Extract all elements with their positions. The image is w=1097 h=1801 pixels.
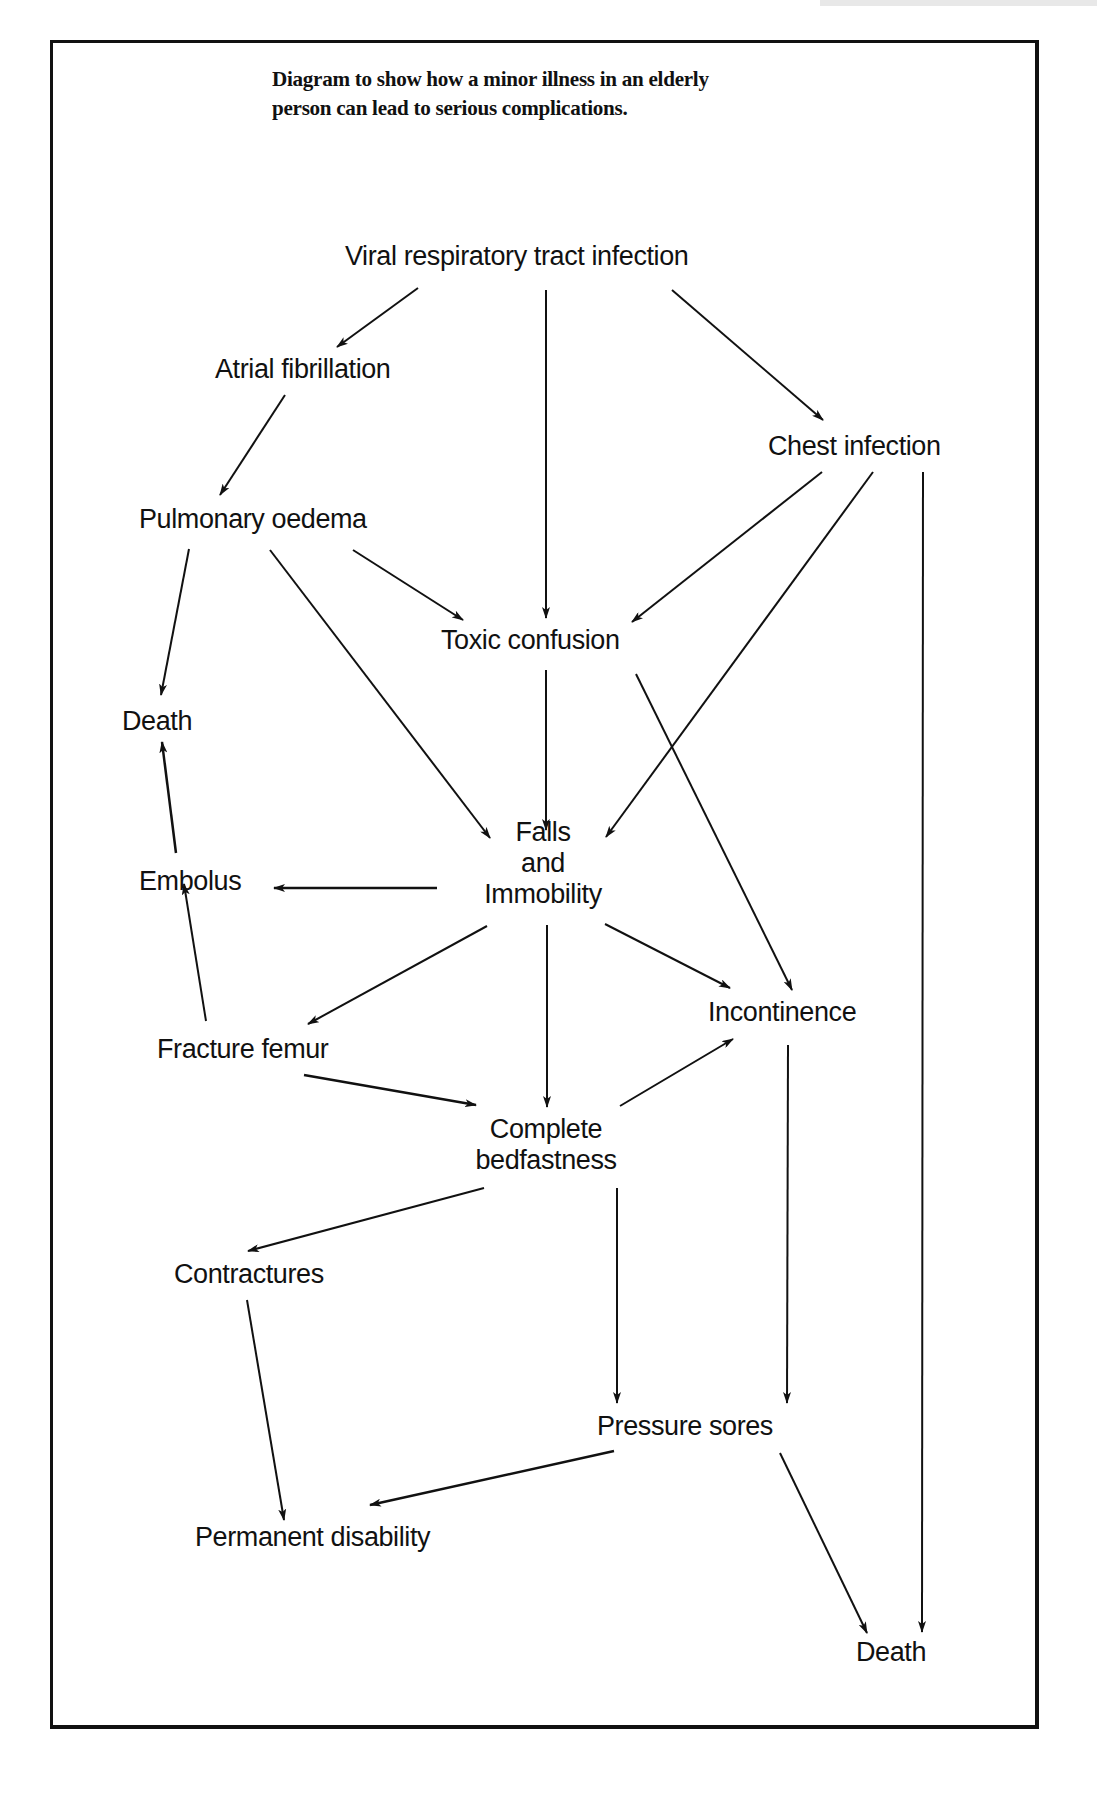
edge-viral-to-atrial bbox=[337, 288, 418, 347]
node-label: Pressure sores bbox=[597, 1411, 773, 1441]
node-pulmonary-oedema: Pulmonary oedema bbox=[139, 503, 367, 535]
node-fracture-femur: Fracture femur bbox=[157, 1033, 328, 1065]
node-label: Fracture femur bbox=[157, 1034, 328, 1064]
node-label: Permanent disability bbox=[195, 1522, 430, 1552]
node-label: Viral respiratory tract infection bbox=[345, 241, 688, 271]
node-incontinence: Incontinence bbox=[708, 996, 856, 1028]
node-label: Pulmonary oedema bbox=[139, 504, 367, 534]
edge-toxic-to-incontinence bbox=[636, 674, 792, 990]
node-label: Atrial fibrillation bbox=[215, 354, 390, 384]
node-label: Death bbox=[856, 1637, 926, 1667]
node-toxic-confusion: Toxic confusion bbox=[441, 624, 620, 656]
node-atrial-fibrillation: Atrial fibrillation bbox=[215, 353, 390, 385]
edge-bedfast-to-contractures bbox=[248, 1188, 484, 1251]
edge-pulmonary-to-falls bbox=[270, 550, 490, 838]
node-viral-respiratory-tract-infection: Viral respiratory tract infection bbox=[345, 240, 688, 272]
node-death-right: Death bbox=[856, 1636, 926, 1668]
node-label: Contractures bbox=[174, 1259, 324, 1289]
edge-bedfast-to-incontinence bbox=[620, 1039, 733, 1106]
node-chest-infection: Chest infection bbox=[768, 430, 941, 462]
node-contractures: Contractures bbox=[174, 1258, 324, 1290]
edge-embolus-to-death bbox=[162, 742, 176, 853]
edge-atrial-to-pulmonary bbox=[220, 395, 285, 495]
node-death-left: Death bbox=[122, 705, 192, 737]
edge-incontinence-to-pressure bbox=[787, 1045, 788, 1403]
edge-pressure-to-permanent bbox=[370, 1451, 614, 1505]
edge-pressure-to-death bbox=[780, 1453, 867, 1633]
node-label-line-1: Complete bbox=[475, 1114, 616, 1145]
node-pressure-sores: Pressure sores bbox=[597, 1410, 773, 1442]
node-permanent-disability: Permanent disability bbox=[195, 1521, 430, 1553]
edge-fracture-to-embolus bbox=[184, 884, 206, 1021]
edge-chest-to-death bbox=[922, 472, 923, 1632]
node-label: Toxic confusion bbox=[441, 625, 620, 655]
node-complete-bedfastness: Complete bedfastness bbox=[475, 1114, 616, 1176]
edge-falls-to-fracture bbox=[308, 926, 487, 1024]
edge-pulmonary-to-toxic bbox=[353, 550, 463, 620]
edge-falls-to-incontinence bbox=[605, 924, 730, 988]
node-label: Embolus bbox=[139, 866, 241, 896]
edge-pulmonary-to-death bbox=[161, 549, 189, 695]
node-label: Death bbox=[122, 706, 192, 736]
node-label-line-2: and bbox=[484, 848, 602, 879]
edge-fracture-to-bedfast bbox=[304, 1075, 476, 1105]
edge-chest-to-falls bbox=[606, 472, 873, 837]
node-label: Chest infection bbox=[768, 431, 941, 461]
node-label-line-3: Immobility bbox=[484, 879, 602, 910]
edge-contractures-to-permanent bbox=[247, 1300, 284, 1520]
node-embolus: Embolus bbox=[139, 865, 241, 897]
node-label-line-2: bedfastness bbox=[475, 1145, 616, 1176]
edge-viral-to-chest bbox=[672, 290, 823, 420]
edge-chest-to-toxic bbox=[632, 472, 822, 622]
node-falls-and-immobility: Falls and Immobility bbox=[484, 817, 602, 910]
node-label-line-1: Falls bbox=[484, 817, 602, 848]
node-label: Incontinence bbox=[708, 997, 856, 1027]
